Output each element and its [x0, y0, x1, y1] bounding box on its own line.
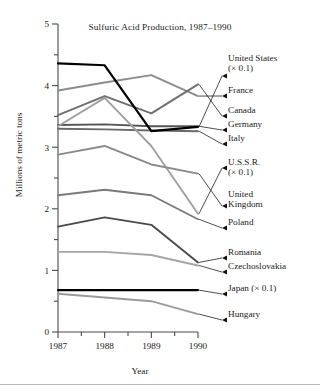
leader-line-japan: [199, 290, 222, 294]
leader-line-united-kingdom: [199, 174, 222, 206]
leader-line-united-states: [199, 76, 222, 127]
legend-label-united-states[interactable]: United States (× 0.1): [228, 53, 277, 74]
legend-label-poland[interactable]: Poland: [228, 217, 254, 227]
series-line-czechoslovakia: [58, 252, 198, 266]
legend-label-u-s-s-r[interactable]: U.S.S.R. (× 0.1): [228, 157, 260, 178]
y-tick-label: 4: [44, 81, 49, 91]
leader-line-romania: [199, 258, 222, 262]
legend-label-romania[interactable]: Romania: [228, 247, 261, 257]
x-tick-label: 1988: [95, 341, 114, 351]
x-tick-label: 1990: [189, 341, 208, 351]
x-tick-label: 1987: [49, 341, 68, 351]
leader-line-italy: [199, 131, 222, 144]
leader-arrow-united-states: [222, 74, 227, 79]
leader-arrow-hungary: [222, 318, 227, 323]
y-tick-label: 5: [44, 19, 49, 29]
leader-arrow-poland: [222, 226, 227, 231]
leader-arrow-france: [222, 94, 227, 99]
legend-label-canada[interactable]: Canada: [228, 105, 256, 115]
leader-arrow-italy: [222, 142, 227, 147]
leader-arrow-united-kingdom: [222, 204, 227, 209]
leader-line-u-s-s-r: [199, 168, 222, 214]
series-line-germany: [58, 124, 198, 126]
leader-arrow-germany: [222, 128, 227, 133]
series-line-united-kingdom: [58, 146, 198, 174]
x-tick-label: 1989: [142, 341, 161, 351]
leader-arrow-u-s-s-r: [222, 166, 227, 171]
y-tick-label: 1: [44, 266, 49, 276]
legend-label-italy[interactable]: Italy: [228, 133, 245, 143]
leader-line-hungary: [199, 314, 222, 320]
legend-label-japan[interactable]: Japan (× 0.1): [228, 283, 276, 293]
series-line-romania: [58, 217, 198, 262]
leader-arrow-japan: [222, 292, 227, 297]
series-line-hungary: [58, 294, 198, 314]
y-tick-label: 0: [44, 327, 49, 337]
leader-line-poland: [199, 219, 222, 228]
leader-arrow-canada: [222, 114, 227, 119]
legend-label-united-kingdom[interactable]: United Kingdom: [228, 189, 263, 210]
legend-label-hungary[interactable]: Hungary: [228, 309, 260, 319]
y-tick-label: 3: [44, 143, 49, 153]
leader-arrow-czechoslovakia: [222, 270, 227, 275]
chart-figure: Sulfuric Acid Production, 1987–1990 Mill…: [0, 0, 320, 389]
leader-line-czechoslovakia: [199, 265, 222, 272]
series-line-poland: [58, 190, 198, 220]
leader-line-germany: [199, 126, 222, 130]
y-tick-label: 2: [44, 204, 49, 214]
leader-line-canada: [199, 84, 222, 116]
series-line-france: [58, 75, 198, 96]
legend-label-czechoslovakia[interactable]: Czechoslovakia: [228, 261, 286, 271]
page-divider: [0, 384, 320, 385]
legend-label-france[interactable]: France: [228, 85, 253, 95]
leader-arrow-romania: [222, 256, 227, 261]
legend-label-germany[interactable]: Germany: [228, 119, 262, 129]
